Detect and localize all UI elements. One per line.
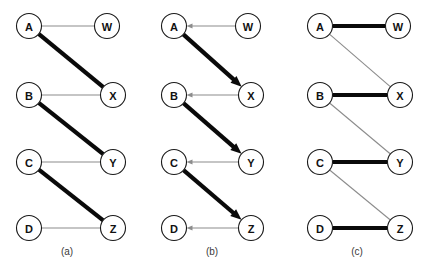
node-label-a: A xyxy=(170,21,178,33)
node-label-x: X xyxy=(109,90,117,102)
edge-b-y xyxy=(39,103,103,154)
node-label-z: Z xyxy=(248,223,255,235)
panel-a: AWBXCYDZ(a) xyxy=(17,14,126,258)
node-label-a: A xyxy=(316,21,324,33)
node-label-z: Z xyxy=(110,223,117,235)
node-label-y: Y xyxy=(396,157,404,169)
node-label-y: Y xyxy=(109,157,117,169)
arrowhead-w-a xyxy=(187,24,193,29)
caption-panel-c: (c) xyxy=(351,246,363,257)
edge-a-x xyxy=(39,34,104,87)
panel-c: AWBXCYDZ(c) xyxy=(308,14,413,258)
caption-panel-a: (a) xyxy=(61,246,73,257)
arrowhead-y-c xyxy=(187,160,193,165)
node-label-d: D xyxy=(25,223,33,235)
edge-a-x xyxy=(183,34,234,80)
edge-b-y xyxy=(330,103,391,154)
node-label-z: Z xyxy=(397,223,404,235)
node-label-b: B xyxy=(170,90,178,102)
node-label-c: C xyxy=(316,157,324,169)
node-label-w: W xyxy=(243,21,254,33)
node-label-c: C xyxy=(25,157,33,169)
node-label-y: Y xyxy=(247,157,255,169)
graph-figure: AWBXCYDZ(a)AWBXCYDZ(b)AWBXCYDZ(c) xyxy=(0,0,427,275)
edge-c-z xyxy=(330,170,391,220)
node-label-x: X xyxy=(247,90,255,102)
node-label-c: C xyxy=(170,157,178,169)
node-label-a: A xyxy=(25,21,33,33)
edge-c-z xyxy=(39,170,103,221)
figure-canvas: AWBXCYDZ(a)AWBXCYDZ(b)AWBXCYDZ(c) xyxy=(0,0,427,275)
caption-panel-b: (b) xyxy=(206,246,218,257)
node-label-x: X xyxy=(396,90,404,102)
arrowhead-z-d xyxy=(187,226,193,231)
edge-a-x xyxy=(329,34,390,87)
arrowhead-x-b xyxy=(187,93,193,98)
edge-b-y xyxy=(183,103,234,147)
node-label-w: W xyxy=(393,21,404,33)
panel-b: AWBXCYDZ(b) xyxy=(162,14,264,258)
node-label-d: D xyxy=(316,223,324,235)
node-label-b: B xyxy=(25,90,33,102)
node-label-w: W xyxy=(102,21,113,33)
node-label-b: B xyxy=(316,90,324,102)
node-label-d: D xyxy=(170,223,178,235)
edge-c-z xyxy=(183,170,233,213)
